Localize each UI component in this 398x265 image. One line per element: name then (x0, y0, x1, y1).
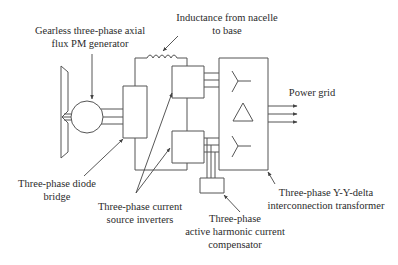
diode-bridge-box (123, 86, 147, 138)
wye-winding-icon (232, 136, 251, 157)
transformer-label-line1: Three-phase Y-Y-delta (258, 186, 394, 199)
inductance-label-line2: to base (154, 24, 300, 37)
diode-bridge-label-line2: bridge (14, 190, 100, 203)
power-grid-label-line1: Power grid (280, 86, 344, 99)
dc-link-bottom (135, 138, 187, 170)
inverters-label-line2: source inverters (90, 213, 190, 226)
compensator-label: Three-phase active harmonic current comp… (176, 212, 294, 251)
compensator-label-line1: Three-phase (176, 212, 294, 225)
wye-winding-icon (232, 71, 251, 92)
grid-output-arrows (268, 106, 297, 122)
inverters-label-line1: Three-phase current (90, 200, 190, 213)
transformer-pointer (268, 172, 275, 184)
csi-bottom-box (172, 131, 204, 163)
inverters-label: Three-phase current source inverters (90, 200, 190, 226)
compensator-wires (207, 138, 215, 178)
delta-winding-icon (233, 103, 253, 121)
compensator-pointer (224, 195, 240, 212)
transformer-box (219, 58, 268, 170)
turbine-blade-icon (61, 66, 71, 158)
generator-label: Gearless three-phase axial flux PM gener… (20, 24, 160, 50)
generator-label-line1: Gearless three-phase axial (20, 24, 160, 37)
power-grid-label: Power grid (280, 86, 344, 99)
compensator-label-line2: active harmonic current (176, 225, 294, 238)
inductance-label-line1: Inductance from nacelle (154, 11, 300, 24)
inverter-pointer-top (136, 93, 172, 193)
inductance-label: Inductance from nacelle to base (154, 11, 300, 37)
transformer-label-line2: interconnection transformer (258, 199, 394, 212)
inductance-pointer (163, 36, 178, 51)
dc-link-top (135, 55, 187, 86)
generator-icon (71, 101, 103, 133)
diode-bridge-label: Three-phase diode bridge (14, 177, 100, 203)
compensator-label-line3: compensator (176, 238, 294, 251)
diode-bridge-pointer (84, 139, 123, 176)
generator-label-line2: flux PM generator (20, 37, 160, 50)
csi-top-box (172, 66, 204, 98)
transformer-label: Three-phase Y-Y-delta interconnection tr… (258, 186, 394, 212)
compensator-box (200, 178, 224, 193)
diode-bridge-label-line1: Three-phase diode (14, 177, 100, 190)
generator-to-bridge-wires (101, 109, 123, 124)
csi-top-to-transformer-wires (204, 73, 219, 87)
